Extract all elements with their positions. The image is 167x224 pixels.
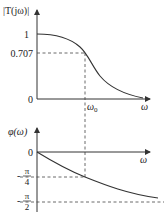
svg-text:π: π [25, 191, 30, 201]
mag-tick-0707: 0.707 [11, 48, 34, 59]
omega0-label: ω0 [87, 101, 98, 114]
magnitude-curve [37, 34, 143, 98]
phase-plot: φ(ω) 0 - π 4 - π 2 ω [8, 126, 164, 212]
mag-tick-1: 1 [24, 29, 29, 40]
phase-ylabel: φ(ω) [8, 126, 28, 138]
phase-xlabel: ω [140, 154, 147, 165]
phase-tick-0: 0 [28, 147, 33, 158]
bode-plot: |T(jω)| 1 0.707 0 ω0 ω φ(ω) 0 - π 4 - π … [0, 0, 167, 224]
phase-tick-minus-pi-over-2: - π 2 [17, 191, 31, 212]
mag-ylabel: |T(jω)| [3, 5, 29, 17]
mag-xlabel: ω [141, 101, 148, 112]
svg-text:2: 2 [25, 202, 30, 212]
magnitude-plot: |T(jω)| 1 0.707 0 ω0 ω [3, 5, 150, 177]
svg-text:-: - [17, 170, 20, 181]
svg-text:π: π [25, 166, 30, 176]
svg-text:4: 4 [25, 177, 30, 187]
mag-tick-0: 0 [28, 94, 33, 105]
svg-text:-: - [17, 195, 20, 206]
phase-tick-minus-pi-over-4: - π 4 [17, 166, 31, 187]
